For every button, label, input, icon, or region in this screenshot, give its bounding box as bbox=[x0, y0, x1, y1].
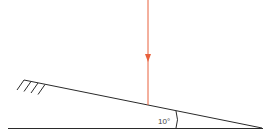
inclined-plane bbox=[24, 80, 262, 128]
force-arrow bbox=[145, 0, 151, 105]
incline-diagram: 10° bbox=[0, 0, 272, 138]
wall-hatch-icon bbox=[17, 80, 45, 95]
angle-label: 10° bbox=[158, 117, 170, 126]
angle-arc bbox=[176, 111, 178, 128]
